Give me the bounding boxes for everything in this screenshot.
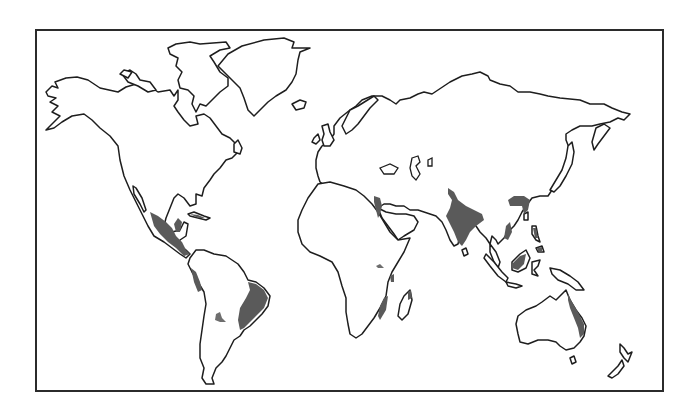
aral-sea bbox=[428, 158, 432, 166]
world-map bbox=[0, 0, 698, 415]
land-tasmania bbox=[570, 356, 576, 364]
land-sri-lanka bbox=[462, 248, 468, 256]
map-canvas bbox=[0, 0, 698, 415]
